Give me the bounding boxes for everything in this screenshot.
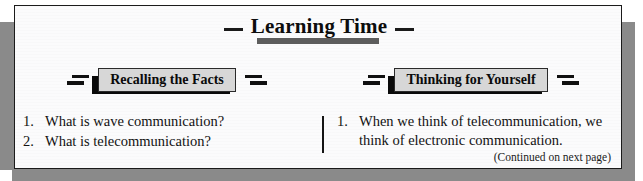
question-list-left: 1. What is wave communication? 2. What i… [23,112,313,151]
list-item: 1. What is wave communication? [23,112,313,131]
heading-row-left: Recalling the Facts [15,70,319,88]
double-dash-ornament-left-icon [67,72,89,87]
learning-time-panel: Learning Time Recalling the Facts [14,5,622,169]
list-item: 1. When we think of telecommunication, w… [337,112,613,149]
question-list-right: 1. When we think of telecommunication, w… [337,112,613,150]
page-title: Learning Time [251,14,388,39]
list-item-number: 1. [23,112,45,131]
title-underline-bar [257,38,379,44]
double-dash-ornament-right-icon [245,72,267,87]
panel-drop-shadow-right [622,22,635,181]
heading-box-thinking-for-yourself: Thinking for Yourself [394,70,547,88]
column-divider [322,116,324,153]
title-line: Learning Time [224,14,415,39]
heading-label: Recalling the Facts [98,68,236,92]
panel-drop-shadow-left [0,22,14,170]
list-item: 2. What is telecommunication? [23,132,313,151]
double-dash-ornament-right-icon [557,72,579,87]
heading-row-right: Thinking for Yourself [319,70,623,88]
heading-label: Thinking for Yourself [394,68,547,92]
list-item-text: What is telecommunication? [45,132,313,151]
continued-note: (Continued on next page) [494,151,611,163]
learning-time-panel-page: Learning Time Recalling the Facts [0,0,643,181]
em-dash-right-icon [395,28,414,31]
heading-box-recalling-the-facts: Recalling the Facts [98,70,236,88]
list-item-number: 2. [23,132,45,151]
panel-title-block: Learning Time [15,14,623,39]
list-item-text: When we think of telecommunication, we t… [359,112,613,149]
column-recalling-the-facts: Recalling the Facts 1. What is wave comm… [15,64,319,170]
em-dash-left-icon [224,28,243,31]
list-item-text: What is wave communication? [45,112,313,131]
list-item-number: 1. [337,112,359,131]
double-dash-ornament-left-icon [363,72,385,87]
